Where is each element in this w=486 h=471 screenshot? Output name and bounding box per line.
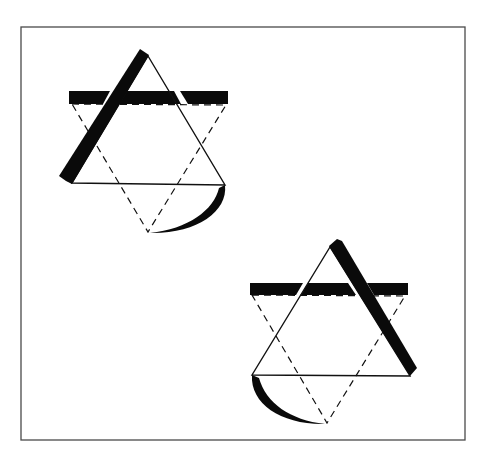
figure-top-left [59, 49, 228, 233]
crescent [150, 185, 225, 233]
figure-bottom-right [250, 239, 417, 424]
thick-slanted-bar [329, 239, 417, 376]
diagram-frame [21, 27, 465, 440]
solid-triangle [252, 247, 410, 376]
thick-slanted-bar [59, 49, 149, 184]
diagram-canvas [0, 0, 486, 471]
horizontal-bar [69, 91, 228, 104]
horizontal-bar [250, 283, 408, 295]
crescent [252, 375, 325, 424]
